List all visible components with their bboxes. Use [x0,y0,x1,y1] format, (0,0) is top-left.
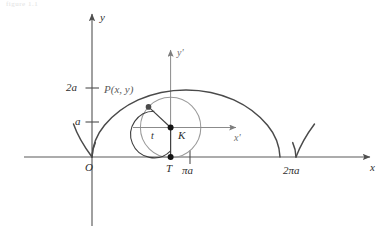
cycloid-figure: figure 1.1 [0,0,386,233]
point-T [168,154,174,160]
angle-label-t: t [151,131,154,141]
radius-kp [149,107,171,128]
point-label-O: O [85,162,93,173]
point-label-K: K [178,130,185,141]
cycloid-main-arch [92,90,280,157]
cycloid-left-stub [74,124,93,157]
x-prime-axis-label: x' [234,133,241,143]
cycloid-diagram-canvas [0,0,386,233]
point-P [146,104,152,110]
x-tick-label-pi-a: πa [182,165,193,176]
y-prime-axis-label: y' [177,48,184,58]
point-label-P: P(x, y) [104,84,133,95]
cycloid-right-stub [296,124,315,157]
x-axis-label: x [370,162,375,173]
point-K [168,125,174,131]
y-tick-label-2a: 2a [66,82,77,93]
point-label-T: T [166,163,172,174]
y-tick-label-a: a [75,116,81,127]
y-axis-label: y [100,12,105,23]
x-tick-label-two-pi-a: 2πa [283,165,300,176]
cycloid-cusp-right [293,143,296,157]
